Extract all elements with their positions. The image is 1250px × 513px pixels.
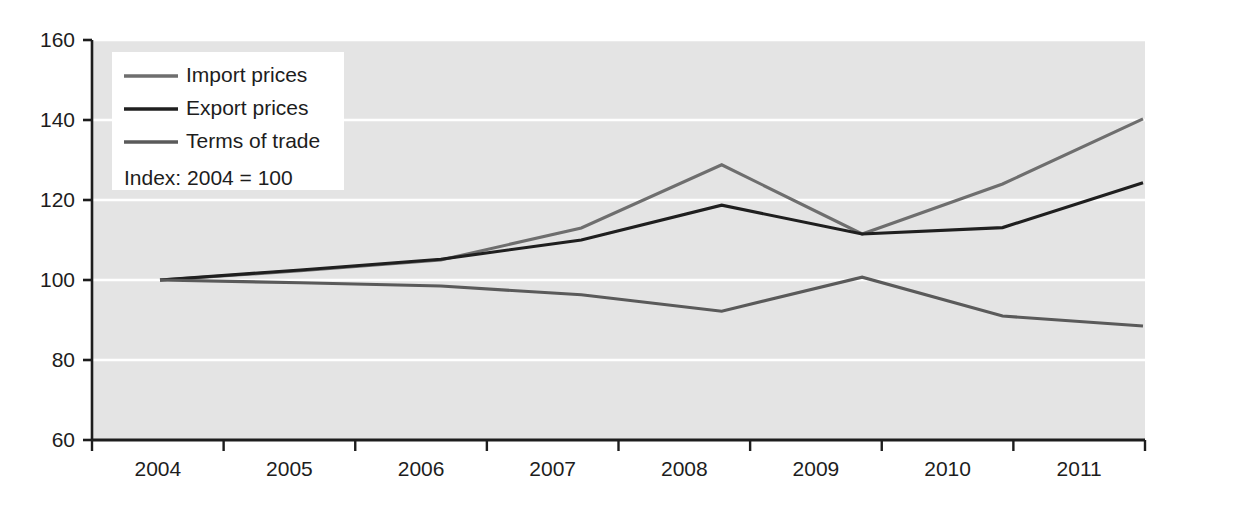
y-axis-tick-label: 60 xyxy=(52,428,75,451)
y-axis-tick-labels: 6080100120140160 xyxy=(40,28,75,451)
line-chart: 6080100120140160 20042005200620072008200… xyxy=(0,0,1250,513)
legend-label: Export prices xyxy=(186,96,309,119)
legend-label: Import prices xyxy=(186,63,307,86)
x-axis-tick-labels: 20042005200620072008200920102011 xyxy=(134,457,1101,480)
y-axis xyxy=(83,40,92,441)
y-axis-tick-label: 80 xyxy=(52,348,75,371)
x-axis-tick-label: 2007 xyxy=(529,457,576,480)
y-axis-tick-label: 100 xyxy=(40,268,75,291)
legend-index-note: Index: 2004 = 100 xyxy=(124,166,293,189)
chart-legend: Import pricesExport pricesTerms of trade… xyxy=(112,52,344,190)
y-axis-tick-label: 140 xyxy=(40,108,75,131)
y-axis-tick-label: 120 xyxy=(40,188,75,211)
legend-label: Terms of trade xyxy=(186,129,320,152)
x-axis xyxy=(92,440,1145,451)
x-axis-tick-label: 2006 xyxy=(398,457,445,480)
x-axis-tick-label: 2005 xyxy=(266,457,313,480)
chart-container: 6080100120140160 20042005200620072008200… xyxy=(0,0,1250,513)
x-axis-tick-label: 2011 xyxy=(1057,457,1102,480)
y-axis-tick-label: 160 xyxy=(40,28,75,51)
x-axis-tick-label: 2008 xyxy=(661,457,708,480)
x-axis-tick-label: 2009 xyxy=(793,457,840,480)
x-axis-tick-label: 2010 xyxy=(924,457,971,480)
x-axis-tick-label: 2004 xyxy=(134,457,181,480)
